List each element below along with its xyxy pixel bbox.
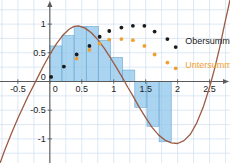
riemann-bar (159, 82, 171, 142)
data-point-obersumme (153, 30, 157, 34)
data-point-obersumme (107, 29, 111, 33)
x-axis-tick-label: 0 (53, 84, 58, 94)
y-axis-tick-label: 1 (41, 19, 46, 29)
data-point-obersumme (98, 35, 102, 39)
data-point-obersumme (62, 65, 66, 69)
data-point-untersumme (119, 37, 123, 41)
x-axis-arrow (223, 79, 229, 84)
data-point-untersumme (153, 53, 157, 57)
data-point-obersumme (142, 24, 146, 28)
origin-label: 0 (41, 72, 46, 82)
x-axis-tick-label: 1 (111, 84, 116, 94)
data-point-untersumme (165, 61, 169, 65)
riemann-bar (98, 40, 110, 81)
y-axis-tick-label: -1 (38, 134, 46, 144)
chart-canvas: -0.500.511.522.510.5-0.5-10ObersummeUnte… (0, 0, 230, 163)
x-axis-tick-label: 2 (175, 84, 180, 94)
y-axis-arrow (47, 1, 52, 7)
data-point-untersumme (142, 44, 146, 48)
x-axis-tick-label: -0.5 (10, 84, 26, 94)
legend-label-untersumme: Untersumme (185, 60, 230, 70)
data-point-obersumme (174, 45, 178, 49)
legend-label-obersumme: Obersumme (185, 36, 230, 46)
riemann-sum-chart: -0.500.511.522.510.5-0.5-10ObersummeUnte… (0, 0, 230, 163)
data-point-untersumme (75, 57, 79, 61)
data-point-obersumme (165, 37, 169, 41)
riemann-bar (62, 36, 74, 82)
data-point-obersumme (75, 53, 79, 57)
x-axis-tick-label: 0.5 (76, 84, 89, 94)
data-point-untersumme (98, 42, 102, 46)
data-point-untersumme (88, 48, 92, 52)
data-point-obersumme (49, 75, 53, 79)
riemann-bar (123, 70, 135, 81)
y-axis-tick-label: -0.5 (30, 105, 46, 115)
data-point-untersumme (174, 66, 178, 70)
data-point-untersumme (131, 38, 135, 42)
x-axis-tick-label: 1.5 (139, 84, 152, 94)
data-point-obersumme (119, 26, 123, 30)
data-point-obersumme (88, 44, 92, 48)
data-point-untersumme (107, 38, 111, 42)
y-axis-tick-label: 0.5 (33, 48, 46, 58)
data-point-obersumme (131, 24, 135, 28)
